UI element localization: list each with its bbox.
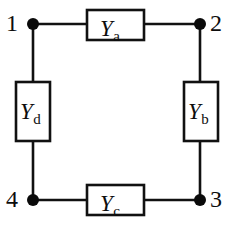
node-label-4: 4: [6, 187, 18, 211]
element-label-Yc: Yc: [100, 192, 120, 219]
node-dot-4: [27, 194, 39, 206]
element-symbol-Yd: Y: [20, 99, 33, 124]
element-label-Yb: Yb: [188, 100, 209, 127]
node-label-3: 3: [210, 187, 222, 211]
circuit-diagram-figure: YaYbYcYd 1234: [0, 0, 232, 230]
element-symbol-Ya: Y: [100, 16, 113, 41]
element-symbol-Yc: Y: [100, 191, 113, 216]
node-dot-3: [194, 194, 206, 206]
element-symbol-Yb: Y: [188, 99, 201, 124]
node-dot-2: [194, 18, 206, 30]
element-subscript-Yd: d: [33, 111, 41, 127]
element-subscript-Yc: c: [113, 203, 120, 219]
node-label-2: 2: [210, 11, 222, 35]
element-label-Yd: Yd: [20, 100, 41, 127]
element-subscript-Yb: b: [201, 111, 209, 127]
wires-group: [33, 24, 200, 200]
element-label-Ya: Ya: [100, 17, 120, 44]
node-label-1: 1: [6, 11, 18, 35]
node-dots-group: [27, 18, 206, 206]
element-subscript-Ya: a: [113, 28, 120, 44]
node-dot-1: [27, 18, 39, 30]
